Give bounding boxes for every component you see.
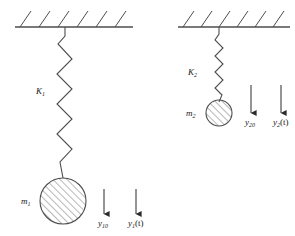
- left-label-y1t-sub: 1: [132, 223, 135, 229]
- right-ceiling-hatching: [183, 11, 284, 27]
- left-label-y10-sub: 10: [102, 223, 108, 229]
- right-label-y20: y20: [245, 118, 255, 127]
- left-mass-label-sub: 1: [28, 201, 31, 207]
- left-mass-label-base: m: [21, 196, 28, 206]
- right-spring-label-sub: 2: [194, 72, 197, 78]
- right-label-y2t-suffix: (t): [280, 117, 289, 127]
- left-spring-label: K1: [36, 87, 45, 96]
- left-mass-circle: [40, 178, 86, 224]
- right-mass-label-sub: 2: [193, 113, 196, 119]
- left-spring-label-sub: 1: [42, 91, 45, 97]
- right-mass-label-base: m: [186, 108, 193, 118]
- right-spring-label: K2: [188, 68, 197, 77]
- figure-canvas: K1 m1 y10 y1(t) K2 m2 y20 y2(t): [0, 0, 295, 236]
- right-label-y20-sub: 20: [249, 122, 255, 128]
- left-label-y1t-suffix: (t): [135, 218, 144, 228]
- left-system-group: [15, 11, 136, 224]
- left-label-y10: y10: [98, 219, 108, 228]
- left-spring: [57, 27, 72, 178]
- left-mass-label: m1: [21, 197, 31, 206]
- right-spring: [215, 27, 223, 102]
- left-label-y1t: y1(t): [128, 219, 144, 228]
- right-mass-label: m2: [186, 109, 196, 118]
- left-ceiling-hatching: [20, 11, 126, 27]
- right-label-y2t: y2(t): [273, 118, 289, 127]
- right-mass-circle: [206, 100, 232, 126]
- right-label-y2t-sub: 2: [277, 122, 280, 128]
